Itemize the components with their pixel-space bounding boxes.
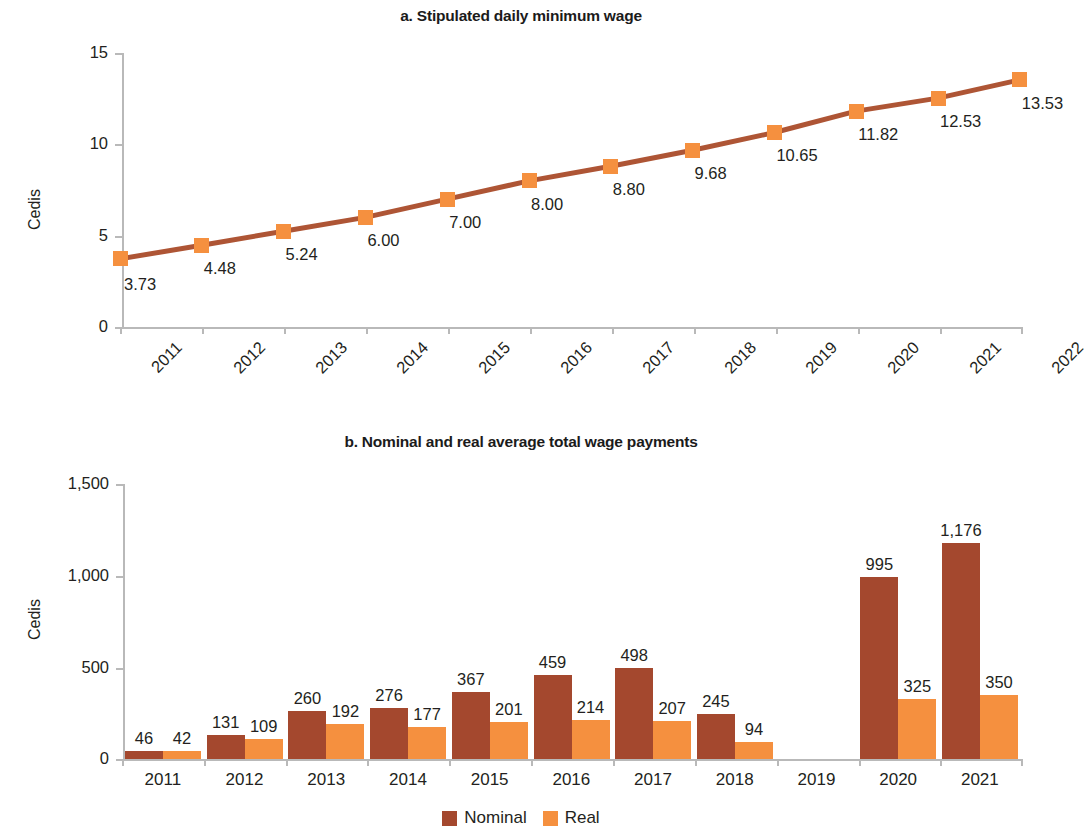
panel-a-point-label-2020: 11.82 bbox=[858, 125, 898, 144]
panel-a-point-label-2022: 13.53 bbox=[1022, 94, 1063, 113]
panel-b-xtick-boundary-7 bbox=[695, 759, 697, 766]
panel-a-point-label-2012: 4.48 bbox=[204, 259, 236, 278]
panel-b-bar-label-nominal-2015: 367 bbox=[443, 670, 499, 689]
panel-a-point-label-2019: 10.65 bbox=[776, 146, 817, 165]
panel-b-bar-real-2013[interactable] bbox=[326, 724, 364, 759]
panel-b-bar-real-2021[interactable] bbox=[980, 695, 1018, 759]
panel-b-bar-nominal-2011[interactable] bbox=[125, 751, 163, 759]
panel-a-marker-2012[interactable] bbox=[194, 238, 209, 253]
panel-b-bar-label-real-2015: 201 bbox=[481, 700, 537, 719]
panel-b-xtick-boundary-8 bbox=[777, 759, 779, 766]
panel-b-xtick-boundary-0 bbox=[122, 759, 124, 766]
panel-b-xtick-boundary-9 bbox=[859, 759, 861, 766]
panel-b-x-axis-line bbox=[123, 759, 1022, 761]
panel-b-xtick-boundary-5 bbox=[531, 759, 533, 766]
panel-b-bar-label-nominal-2014: 276 bbox=[361, 686, 417, 705]
panel-b-plot-area: 1,500 1,000 500 0 4642131109260192276177… bbox=[0, 420, 1042, 830]
legend-item-real[interactable]: Real bbox=[543, 808, 600, 828]
panel-a-marker-2016[interactable] bbox=[522, 173, 537, 188]
legend-swatch-nominal-icon bbox=[442, 811, 457, 826]
panel-b-bar-label-real-2012: 109 bbox=[236, 717, 292, 736]
panel-b-bar-nominal-2016[interactable] bbox=[534, 675, 572, 759]
panel-b-bar-label-real-2021: 350 bbox=[971, 673, 1027, 692]
panel-b-bar-real-2014[interactable] bbox=[408, 727, 446, 759]
panel-a-point-label-2014: 6.00 bbox=[367, 231, 399, 250]
panel-a-marker-2017[interactable] bbox=[603, 159, 618, 174]
panel-a-point-label-2015: 7.00 bbox=[449, 213, 481, 232]
panel-b-bar-label-nominal-2018: 245 bbox=[688, 692, 744, 711]
panel-b-bar-label-real-2014: 177 bbox=[399, 705, 455, 724]
panel-b-bar-label-real-2016: 214 bbox=[563, 698, 619, 717]
panel-b-bar-label-real-2020: 325 bbox=[889, 677, 945, 696]
panel-b-xtick-boundary-10 bbox=[940, 759, 942, 766]
panel-b-xtick-boundary-4 bbox=[449, 759, 451, 766]
panel-b-bar-real-2011[interactable] bbox=[163, 751, 201, 759]
panel-b-bar-real-2018[interactable] bbox=[735, 742, 773, 759]
panel-b-legend: Nominal Real bbox=[0, 808, 1042, 828]
panel-b-bar-label-nominal-2020: 995 bbox=[851, 555, 907, 574]
panel-a-marker-2013[interactable] bbox=[276, 224, 291, 239]
panel-b-bar-label-nominal-2021: 1,176 bbox=[933, 521, 989, 540]
panel-nominal-real-wage-payments: b. Nominal and real average total wage p… bbox=[0, 420, 1042, 830]
panel-a-marker-2019[interactable] bbox=[767, 125, 782, 140]
panel-b-bar-real-2012[interactable] bbox=[245, 739, 283, 759]
panel-stipulated-daily-minimum-wage: a. Stipulated daily minimum wage Cedis 1… bbox=[0, 0, 1042, 420]
panel-b-xtick-boundary-2 bbox=[286, 759, 288, 766]
panel-a-point-label-2011: 3.73 bbox=[124, 275, 156, 294]
panel-a-point-label-2017: 8.80 bbox=[613, 180, 645, 199]
legend-swatch-real-icon bbox=[543, 811, 558, 826]
panel-a-marker-2015[interactable] bbox=[440, 192, 455, 207]
panel-b-bar-nominal-2021[interactable] bbox=[942, 543, 980, 759]
panel-b-bars: 4642131109260192276177367201459214498207… bbox=[0, 420, 1042, 759]
panel-a-point-label-2016: 8.00 bbox=[531, 195, 563, 214]
panel-a-marker-2021[interactable] bbox=[931, 91, 946, 106]
panel-b-bar-label-real-2011: 42 bbox=[154, 729, 210, 748]
legend-item-nominal[interactable]: Nominal bbox=[442, 808, 526, 828]
panel-b-bar-label-nominal-2016: 459 bbox=[525, 653, 581, 672]
panel-b-bar-nominal-2012[interactable] bbox=[207, 735, 245, 759]
legend-label-nominal: Nominal bbox=[464, 808, 526, 828]
panel-b-xlabel-2021: 2021 bbox=[931, 770, 1029, 790]
panel-b-bar-label-real-2018: 94 bbox=[726, 720, 782, 739]
panel-b-xtick-boundary-1 bbox=[204, 759, 206, 766]
panel-b-bar-real-2017[interactable] bbox=[653, 721, 691, 759]
legend-label-real: Real bbox=[565, 808, 600, 828]
panel-a-plot-area: 15 10 5 0 bbox=[0, 0, 1042, 420]
panel-b-bar-nominal-2020[interactable] bbox=[860, 577, 898, 759]
panel-a-point-label-2021: 12.53 bbox=[940, 112, 981, 131]
panel-b-xtick-boundary-11 bbox=[1021, 759, 1023, 766]
panel-a-marker-2011[interactable] bbox=[113, 251, 128, 266]
panel-b-bar-real-2020[interactable] bbox=[898, 699, 936, 759]
panel-b-xtick-boundary-3 bbox=[367, 759, 369, 766]
panel-a-marker-2014[interactable] bbox=[358, 210, 373, 225]
panel-a-marker-2022[interactable] bbox=[1012, 72, 1027, 87]
panel-a-point-label-2013: 5.24 bbox=[286, 245, 318, 264]
panel-a-xlabel-2022: 2022 bbox=[1048, 338, 1087, 377]
panel-b-bar-label-nominal-2017: 498 bbox=[606, 646, 662, 665]
panel-a-marker-2020[interactable] bbox=[849, 104, 864, 119]
panel-b-bar-real-2016[interactable] bbox=[572, 720, 610, 759]
panel-b-xtick-boundary-6 bbox=[613, 759, 615, 766]
panel-a-marker-2018[interactable] bbox=[685, 143, 700, 158]
panel-b-bar-real-2015[interactable] bbox=[490, 722, 528, 759]
panel-a-point-label-2018: 9.68 bbox=[695, 164, 727, 183]
